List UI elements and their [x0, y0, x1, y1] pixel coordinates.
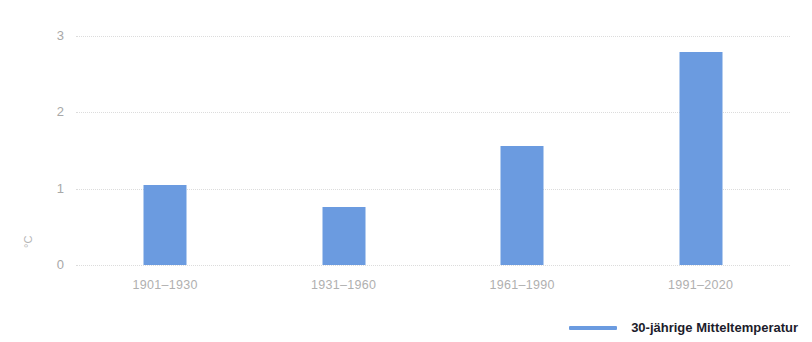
bar-series	[76, 36, 790, 265]
bar[interactable]	[679, 52, 722, 265]
x-tick-label: 1931–1960	[255, 278, 434, 292]
x-tick-label: 1991–2020	[612, 278, 791, 292]
temperature-bar-chart: °C 3210 1901–19301931–19601961–19901991–…	[0, 0, 812, 342]
x-tick-label: 1901–1930	[76, 278, 255, 292]
gridline	[76, 265, 790, 266]
y-tick-label: 2	[24, 104, 64, 119]
plot-area	[76, 36, 790, 265]
legend-label: 30-jährige Mitteltemperatur	[631, 320, 798, 335]
y-tick-label: 3	[24, 28, 64, 43]
x-tick-label: 1961–1990	[433, 278, 612, 292]
chart-legend: 30-jährige Mitteltemperatur	[569, 320, 798, 335]
bar[interactable]	[322, 207, 365, 265]
y-tick-label: 1	[24, 181, 64, 196]
y-axis-title: °C	[22, 236, 34, 248]
bar-slot	[76, 36, 255, 265]
y-tick-label: 0	[24, 257, 64, 272]
legend-swatch-icon	[569, 326, 617, 330]
bar[interactable]	[144, 185, 187, 265]
bar-slot	[433, 36, 612, 265]
bar-slot	[255, 36, 434, 265]
bar[interactable]	[501, 146, 544, 265]
bar-slot	[612, 36, 791, 265]
